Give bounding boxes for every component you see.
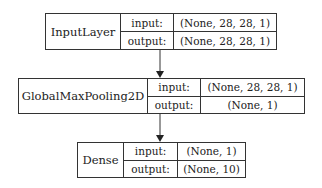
input-shape: (None, 1) <box>178 143 245 160</box>
output-row: output: (None, 28, 28, 1) <box>121 31 276 49</box>
input-shape: (None, 28, 28, 1) <box>201 79 304 96</box>
layer-node-dense: Dense input: (None, 1) output: (None, 10… <box>77 142 246 178</box>
input-label: input: <box>148 79 201 96</box>
layer-node-inputlayer: InputLayer input: (None, 28, 28, 1) outp… <box>45 13 277 50</box>
layer-name: Dense <box>78 143 124 177</box>
output-label: output: <box>121 32 174 49</box>
output-shape: (None, 28, 28, 1) <box>174 32 276 49</box>
input-row: input: (None, 1) <box>124 143 245 160</box>
layer-name: InputLayer <box>46 14 121 49</box>
arrowhead-icon <box>156 135 164 142</box>
output-row: output: (None, 10) <box>124 160 245 178</box>
layer-name: GlobalMaxPooling2D <box>19 79 148 113</box>
output-shape: (None, 1) <box>201 97 304 114</box>
edge-input-to-pooling <box>156 50 164 78</box>
edge-pooling-to-dense <box>156 114 164 142</box>
output-label: output: <box>124 161 178 178</box>
arrowhead-icon <box>156 71 164 78</box>
input-row: input: (None, 28, 28, 1) <box>148 79 304 96</box>
input-shape: (None, 28, 28, 1) <box>174 14 276 31</box>
output-shape: (None, 10) <box>178 161 245 178</box>
input-label: input: <box>121 14 174 31</box>
input-label: input: <box>124 143 178 160</box>
input-row: input: (None, 28, 28, 1) <box>121 14 276 31</box>
layer-node-globalmaxpooling2d: GlobalMaxPooling2D input: (None, 28, 28,… <box>18 78 305 114</box>
output-label: output: <box>148 97 201 114</box>
output-row: output: (None, 1) <box>148 96 304 114</box>
